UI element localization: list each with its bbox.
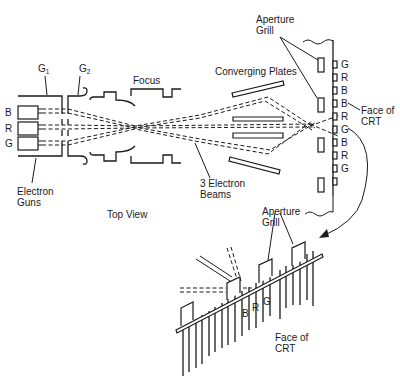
label-focus: Focus bbox=[133, 75, 160, 86]
aperture-grill-top bbox=[318, 58, 324, 192]
label-detail-b: B bbox=[242, 308, 249, 319]
label-face-of-crt-bottom-1: Face of bbox=[275, 332, 309, 343]
gun-r bbox=[18, 122, 38, 135]
electron-guns bbox=[18, 106, 42, 150]
label-gun-g: G bbox=[5, 138, 13, 149]
label-aperture-grill-top-1: Aperture bbox=[256, 14, 295, 25]
crt-face-top: G R B B R G B R G bbox=[303, 40, 349, 216]
stripe-label: G bbox=[341, 124, 349, 135]
label-top-view: Top View bbox=[107, 209, 148, 220]
label-aperture-grill-bottom-1: Aperture bbox=[262, 206, 301, 217]
stripe-label: B bbox=[341, 98, 348, 109]
label-g1: G1 bbox=[38, 63, 50, 75]
label-g2: G2 bbox=[79, 63, 91, 75]
stripe-label: R bbox=[341, 72, 348, 83]
label-3-electron-beams-1: 3 Electron bbox=[200, 178, 245, 189]
stripe-label: G bbox=[341, 59, 349, 70]
stripe-label: B bbox=[341, 137, 348, 148]
label-face-of-crt-bottom-2: CRT bbox=[275, 343, 295, 354]
stripe-label: G bbox=[341, 163, 349, 174]
label-electron-guns-1: Electron bbox=[17, 186, 54, 197]
electron-beams bbox=[42, 97, 340, 154]
label-aperture-grill-top-2: Grill bbox=[256, 25, 274, 36]
label-electron-guns-2: Guns bbox=[17, 197, 41, 208]
gun-g bbox=[18, 137, 38, 150]
stripe-label: B bbox=[341, 85, 348, 96]
stripe-label: R bbox=[341, 111, 348, 122]
label-aperture-grill-bottom-2: Grill bbox=[262, 217, 280, 228]
label-face-of-crt-top-2: CRT bbox=[361, 116, 381, 127]
stripe-label: R bbox=[341, 150, 348, 161]
label-face-of-crt-top-1: Face of bbox=[361, 105, 395, 116]
crt-diagram: G R B B R G B R G bbox=[0, 0, 400, 386]
label-detail-r: R bbox=[252, 302, 259, 313]
gun-b bbox=[18, 106, 38, 119]
aperture-grill-detail bbox=[176, 242, 323, 376]
label-converging-plates: Converging Plates bbox=[215, 66, 297, 77]
label-3-electron-beams-2: Beams bbox=[200, 189, 231, 200]
label-detail-g: G bbox=[263, 296, 271, 307]
label-gun-r: R bbox=[5, 123, 12, 134]
grid-g2 bbox=[68, 88, 87, 164]
label-gun-b: B bbox=[5, 107, 12, 118]
